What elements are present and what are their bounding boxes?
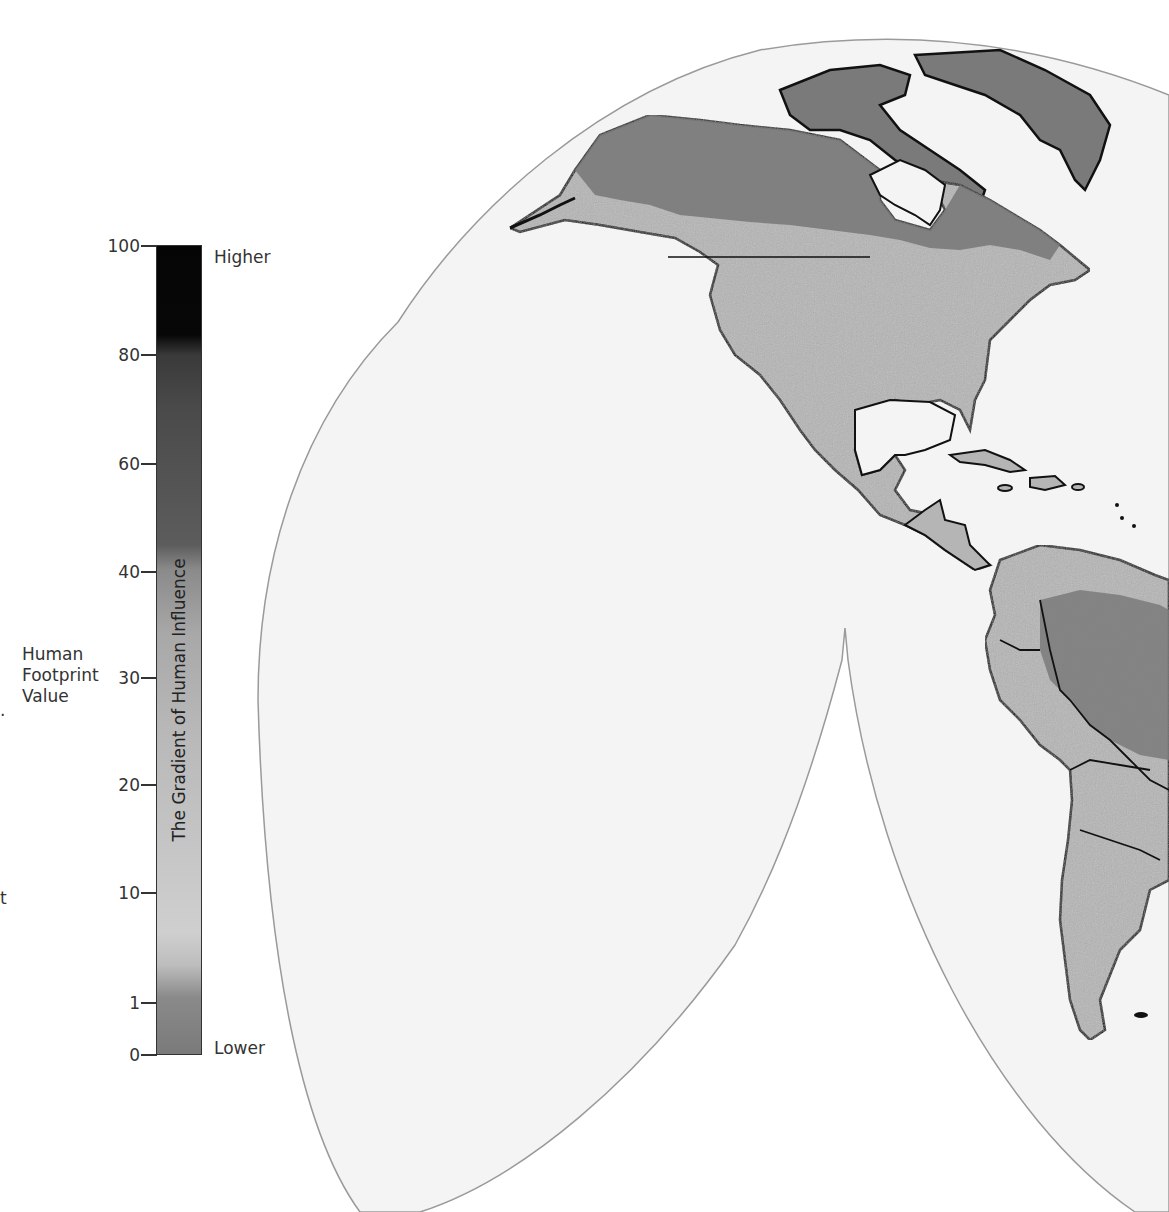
- tick-mark: [141, 245, 157, 247]
- tick-mark: [141, 354, 157, 356]
- tick-label: 30: [90, 668, 140, 688]
- puerto-rico: [1072, 484, 1084, 490]
- lesser-antilles: [1120, 516, 1124, 520]
- tick-label: 1: [90, 993, 140, 1013]
- higher-label: Higher: [214, 247, 271, 267]
- axis-label-line: Human: [22, 644, 99, 665]
- tick-mark: [141, 892, 157, 894]
- tick-label: 80: [90, 345, 140, 365]
- tick-label: 20: [90, 775, 140, 795]
- lesser-antilles: [1115, 503, 1119, 507]
- legend: Human Footprint Value The Gradient of Hu…: [0, 0, 290, 1212]
- edge-fragment-dot: .: [0, 700, 5, 720]
- tick-mark: [141, 677, 157, 679]
- falkland-islands: [1134, 1012, 1148, 1018]
- jamaica: [998, 485, 1012, 491]
- tick-label: 0: [90, 1045, 140, 1065]
- tick-mark: [141, 1054, 157, 1056]
- tick-label: 40: [90, 562, 140, 582]
- tick-label: 100: [90, 236, 140, 256]
- edge-fragment-t: t: [0, 888, 7, 908]
- axis-label-line: Value: [22, 686, 99, 707]
- lesser-antilles: [1132, 524, 1136, 528]
- tick-label: 60: [90, 454, 140, 474]
- tick-mark: [141, 784, 157, 786]
- tick-label: 10: [90, 883, 140, 903]
- axis-label-line: Footprint: [22, 665, 99, 686]
- tick-mark: [141, 571, 157, 573]
- lower-label: Lower: [214, 1038, 265, 1058]
- gradient-bar-title: The Gradient of Human Influence: [169, 558, 189, 841]
- tick-mark: [141, 463, 157, 465]
- legend-axis-label: Human Footprint Value: [22, 644, 99, 707]
- tick-mark: [141, 1002, 157, 1004]
